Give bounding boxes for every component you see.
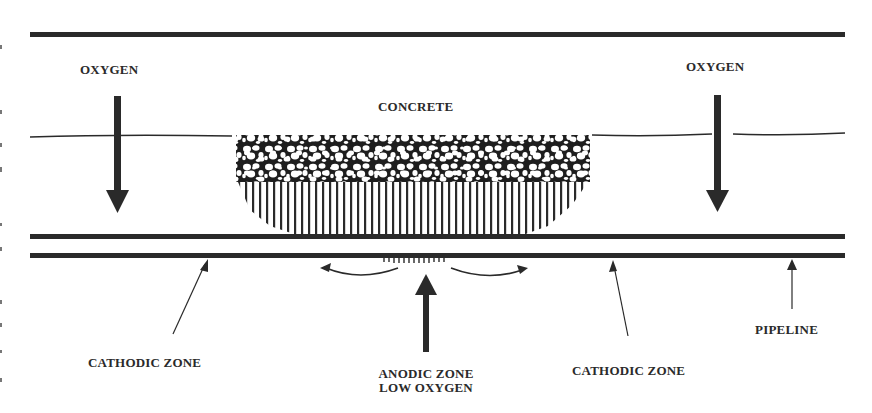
cathodic-pointer-right <box>609 260 628 336</box>
pipeline <box>30 234 845 263</box>
concrete-block <box>236 135 590 236</box>
corrosion-diagram: OXYGEN OXYGEN CONCRETE CATHODIC ZONE CAT… <box>0 0 872 413</box>
cathodic-pointer-left <box>173 259 208 334</box>
anodic-zone-line2: LOW OXYGEN <box>368 381 484 395</box>
pipeline-top-wall <box>30 234 845 239</box>
current-flow-arrow-right <box>451 265 528 276</box>
pipeline-bottom-wall <box>30 253 845 258</box>
top-boundary-line <box>30 32 845 37</box>
anodic-zone-line1: ANODIC ZONE <box>368 367 484 381</box>
oxygen-arrow-right <box>706 95 729 212</box>
oxygen-arrow-left <box>106 96 129 213</box>
left-edge-marks <box>0 45 2 382</box>
cathodic-zone-label-right: CATHODIC ZONE <box>572 364 685 378</box>
oxygen-label-left: OXYGEN <box>80 63 138 77</box>
anodic-pitting-marks <box>384 258 444 263</box>
anodic-zone-label: ANODIC ZONE LOW OXYGEN <box>368 367 484 395</box>
cathodic-zone-label-left: CATHODIC ZONE <box>88 356 201 370</box>
current-flow-arrow-left <box>320 263 398 275</box>
concrete-label: CONCRETE <box>378 100 453 114</box>
oxygen-label-right: OXYGEN <box>686 60 744 74</box>
anodic-arrow <box>415 274 437 352</box>
pipeline-label: PIPELINE <box>755 323 818 337</box>
pipeline-pointer <box>787 259 797 309</box>
